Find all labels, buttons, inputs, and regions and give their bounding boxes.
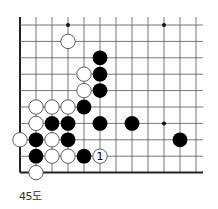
white-stone xyxy=(29,116,43,130)
black-stone xyxy=(61,116,76,131)
white-stone xyxy=(61,100,75,114)
go-board-diagram: 1 xyxy=(0,0,218,209)
black-stone xyxy=(93,116,108,131)
board-grid xyxy=(20,17,203,173)
white-stone xyxy=(45,149,59,163)
white-stone xyxy=(29,165,43,179)
white-stone: 1 xyxy=(93,149,107,163)
white-stone xyxy=(45,133,59,147)
black-stone xyxy=(77,149,92,164)
star-point-icon xyxy=(66,23,70,27)
white-stone xyxy=(77,67,91,81)
diagram-caption: 45도 xyxy=(19,187,42,203)
star-point-icon xyxy=(162,121,166,125)
black-stone xyxy=(45,116,60,131)
black-stone xyxy=(125,116,140,131)
white-stone xyxy=(61,34,75,48)
white-stone xyxy=(29,100,43,114)
black-stone xyxy=(93,67,108,82)
white-stone xyxy=(13,133,27,147)
black-stone xyxy=(93,50,108,65)
stone-move-number: 1 xyxy=(97,150,104,163)
white-stone xyxy=(45,100,59,114)
black-stone xyxy=(61,132,76,147)
black-stone xyxy=(77,100,92,115)
black-stone xyxy=(173,132,188,147)
black-stone xyxy=(29,132,44,147)
white-stone xyxy=(77,83,91,97)
white-stone xyxy=(61,149,75,163)
black-stone xyxy=(93,83,108,98)
black-stone xyxy=(29,149,44,164)
star-point-icon xyxy=(162,23,166,27)
